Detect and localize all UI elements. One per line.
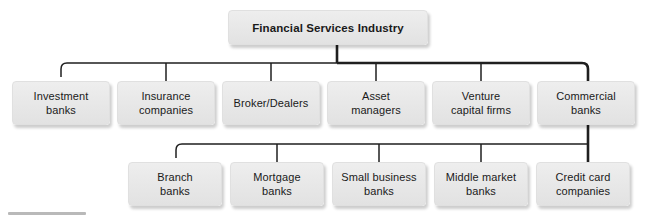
node-label: Branch banks — [157, 170, 192, 198]
node-label: Commercial banks — [556, 89, 616, 117]
node-venture-capital-firms[interactable]: Venture capital firms — [432, 81, 530, 125]
level2-trunk-right — [337, 63, 588, 81]
node-label: Credit card companies — [556, 170, 611, 198]
node-branch-banks[interactable]: Branch banks — [128, 162, 222, 206]
node-financial-services-industry[interactable]: Financial Services Industry — [228, 10, 428, 45]
level2-bus-left — [61, 63, 588, 81]
node-label: Investment banks — [34, 89, 89, 117]
node-commercial-banks[interactable]: Commercial banks — [537, 81, 635, 125]
node-mortgage-banks[interactable]: Mortgage banks — [230, 162, 324, 206]
node-investment-banks[interactable]: Investment banks — [12, 81, 110, 125]
node-label: Small business banks — [341, 170, 416, 198]
node-asset-managers[interactable]: Asset managers — [327, 81, 425, 125]
node-credit-card-companies[interactable]: Credit card companies — [536, 162, 630, 206]
node-insurance-companies[interactable]: Insurance companies — [117, 81, 215, 125]
node-broker-dealers[interactable]: Broker/Dealers — [222, 81, 320, 125]
bottom-divider-rule — [8, 212, 86, 215]
org-chart-diagram: Financial Services Industry Investment b… — [0, 0, 654, 224]
node-label: Venture capital firms — [451, 89, 511, 117]
node-middle-market-banks[interactable]: Middle market banks — [434, 162, 528, 206]
node-label: Middle market banks — [446, 170, 516, 198]
node-label: Insurance companies — [139, 89, 193, 117]
node-label: Mortgage banks — [253, 170, 300, 198]
node-label: Broker/Dealers — [234, 96, 309, 110]
node-label: Asset managers — [351, 89, 401, 117]
level3-bus — [176, 144, 588, 158]
node-small-business-banks[interactable]: Small business banks — [332, 162, 426, 206]
node-label: Financial Services Industry — [252, 21, 404, 35]
